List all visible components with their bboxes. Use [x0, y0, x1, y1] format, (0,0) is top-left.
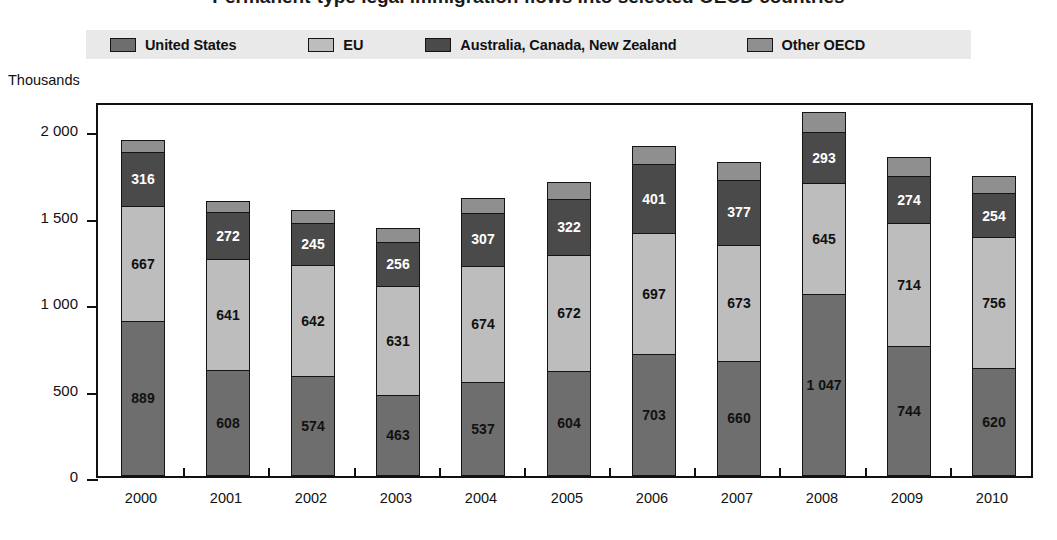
bar-segment-2000-other-oecd[interactable]: [121, 140, 165, 152]
bar-segment-2000-united-states[interactable]: 889: [121, 321, 165, 476]
bar-segment-2003-australia-canada-new-zealand[interactable]: 256: [376, 241, 420, 287]
bar-segment-2003-united-states[interactable]: 463: [376, 395, 420, 477]
bar-segment-2002-other-oecd[interactable]: [291, 210, 335, 223]
bar-segment-2001-australia-canada-new-zealand[interactable]: 272: [206, 212, 250, 261]
x-axis-label-2004: 2004: [445, 490, 517, 506]
bar-segment-2010-australia-canada-new-zealand[interactable]: 254: [972, 193, 1016, 238]
bar-segment-2004-australia-canada-new-zealand[interactable]: 307: [461, 212, 505, 267]
bar-2007[interactable]: 660673377: [717, 101, 761, 476]
x-axis-label-2001: 2001: [190, 490, 262, 506]
bar-2010[interactable]: 620756254: [972, 101, 1016, 476]
bar-segment-value-label: 672: [557, 306, 580, 320]
bar-segment-2010-united-states[interactable]: 620: [972, 367, 1016, 476]
bar-2009[interactable]: 744714274: [887, 101, 931, 476]
legend-item-united_states[interactable]: United States: [110, 30, 236, 59]
x-axis-label-2009: 2009: [871, 490, 943, 506]
legend-label-united_states: United States: [145, 37, 236, 53]
bar-segment-2006-australia-canada-new-zealand[interactable]: 401: [632, 163, 676, 234]
y-axis-unit-caption: Thousands: [8, 72, 80, 88]
bar-segment-2006-united-states[interactable]: 703: [632, 353, 676, 476]
bar-segment-2007-australia-canada-new-zealand[interactable]: 377: [717, 179, 761, 246]
bar-segment-2007-other-oecd[interactable]: [717, 162, 761, 180]
bar-segment-value-label: 245: [301, 237, 324, 251]
bar-segment-2010-other-oecd[interactable]: [972, 176, 1016, 195]
bar-segment-value-label: 703: [642, 408, 665, 422]
bar-segment-2002-australia-canada-new-zealand[interactable]: 245: [291, 222, 335, 266]
bar-segment-2009-eu[interactable]: 714: [887, 223, 931, 348]
bar-segment-2006-eu[interactable]: 697: [632, 233, 676, 355]
chart-root: Permanent-type legal immigration flows i…: [0, 0, 1057, 540]
chart-title-cropped: Permanent-type legal immigration flows i…: [0, 0, 1057, 16]
bar-segment-value-label: 574: [301, 419, 324, 433]
x-axis-label-2006: 2006: [616, 490, 688, 506]
bar-segment-value-label: 272: [216, 229, 239, 243]
x-axis-tick: [609, 468, 611, 476]
bar-segment-2007-united-states[interactable]: 660: [717, 360, 761, 476]
bar-segment-2001-other-oecd[interactable]: [206, 201, 250, 213]
bar-2001[interactable]: 608641272: [206, 101, 250, 476]
bar-segment-value-label: 274: [897, 193, 920, 207]
legend-item-other_oecd[interactable]: Other OECD: [747, 30, 866, 59]
x-axis-tick: [694, 468, 696, 476]
bar-segment-2004-eu[interactable]: 674: [461, 265, 505, 383]
bar-2006[interactable]: 703697401: [632, 101, 676, 476]
bar-segment-2009-united-states[interactable]: 744: [887, 346, 931, 476]
bar-segment-2005-other-oecd[interactable]: [547, 182, 591, 200]
legend-item-acnz[interactable]: Australia, Canada, New Zealand: [425, 30, 676, 59]
legend-item-eu[interactable]: EU: [308, 30, 363, 59]
bar-segment-2008-australia-canada-new-zealand[interactable]: 293: [802, 131, 846, 183]
bar-segment-2005-united-states[interactable]: 604: [547, 370, 591, 476]
bar-segment-2008-eu[interactable]: 645: [802, 182, 846, 295]
bar-segment-value-label: 645: [812, 232, 835, 246]
bar-segment-2004-united-states[interactable]: 537: [461, 382, 505, 476]
bar-segment-2008-other-oecd[interactable]: [802, 112, 846, 133]
bar-2004[interactable]: 537674307: [461, 101, 505, 476]
bar-segment-value-label: 377: [727, 205, 750, 219]
x-axis-tick: [439, 468, 441, 476]
bar-segment-2001-united-states[interactable]: 608: [206, 369, 250, 476]
bar-2005[interactable]: 604672322: [547, 101, 591, 476]
y-axis-tick-label: 2 000: [0, 122, 78, 139]
bar-2000[interactable]: 889667316: [121, 101, 165, 476]
legend-label-eu: EU: [343, 37, 363, 53]
bar-segment-2000-eu[interactable]: 667: [121, 206, 165, 323]
bar-segment-2009-other-oecd[interactable]: [887, 157, 931, 177]
bar-segment-2010-eu[interactable]: 756: [972, 237, 1016, 369]
chart-title-text: Permanent-type legal immigration flows i…: [0, 0, 1057, 8]
legend-label-other_oecd: Other OECD: [782, 37, 866, 53]
bar-segment-2002-united-states[interactable]: 574: [291, 375, 335, 476]
bar-segment-2002-eu[interactable]: 642: [291, 264, 335, 376]
bar-segment-value-label: 620: [982, 415, 1005, 429]
bar-segment-value-label: 642: [301, 314, 324, 328]
bar-segment-value-label: 697: [642, 287, 665, 301]
y-axis-tick-label: 1 500: [0, 209, 78, 226]
bar-segment-2001-eu[interactable]: 641: [206, 259, 250, 371]
bar-2003[interactable]: 463631256: [376, 101, 420, 476]
bar-segment-value-label: 608: [216, 416, 239, 430]
bar-2008[interactable]: 1 047645293: [802, 101, 846, 476]
bar-2002[interactable]: 574642245: [291, 101, 335, 476]
bar-segment-2005-australia-canada-new-zealand[interactable]: 322: [547, 198, 591, 255]
bar-segment-2000-australia-canada-new-zealand[interactable]: 316: [121, 151, 165, 207]
bar-segment-value-label: 641: [216, 308, 239, 322]
y-axis-tick-label: 1 000: [0, 295, 78, 312]
bar-segment-value-label: 714: [897, 278, 920, 292]
x-axis-label-2008: 2008: [786, 490, 858, 506]
x-axis-tick: [950, 468, 952, 476]
bar-segment-value-label: 660: [727, 411, 750, 425]
bar-segment-2009-australia-canada-new-zealand[interactable]: 274: [887, 175, 931, 224]
x-axis-tick: [183, 468, 185, 476]
bar-segment-2006-other-oecd[interactable]: [632, 146, 676, 165]
bar-segment-2003-other-oecd[interactable]: [376, 228, 420, 243]
bar-segment-2003-eu[interactable]: 631: [376, 285, 420, 396]
plot-area: 8896673166086412725746422454636312565376…: [96, 103, 1033, 478]
bar-segment-value-label: 604: [557, 416, 580, 430]
bar-segment-value-label: 667: [131, 257, 154, 271]
x-axis-tick: [354, 468, 356, 476]
y-axis-tick: [87, 393, 98, 395]
chart-legend: United StatesEUAustralia, Canada, New Ze…: [86, 30, 971, 59]
bar-segment-2005-eu[interactable]: 672: [547, 254, 591, 372]
bar-segment-2004-other-oecd[interactable]: [461, 198, 505, 214]
bar-segment-2008-united-states[interactable]: 1 047: [802, 294, 846, 476]
bar-segment-2007-eu[interactable]: 673: [717, 244, 761, 362]
